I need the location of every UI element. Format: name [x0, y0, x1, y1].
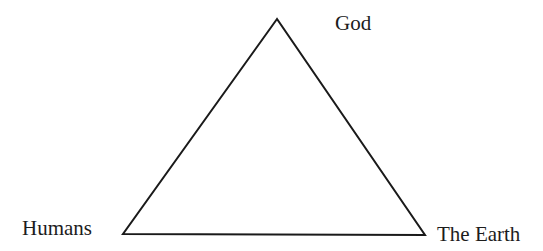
node-label-god: God [335, 13, 371, 34]
triangle-outline [123, 19, 425, 235]
triangle-diagram: God Humans The Earth [0, 0, 543, 251]
node-label-humans: Humans [22, 218, 92, 239]
triangle-shape [0, 0, 543, 251]
node-label-earth: The Earth [437, 224, 520, 245]
